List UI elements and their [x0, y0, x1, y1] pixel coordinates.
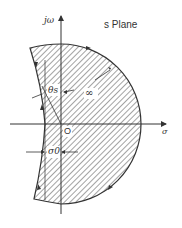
infinity-label: ∞ [85, 88, 93, 98]
s-plane-diagram [0, 0, 182, 228]
angle-label: θs [48, 86, 58, 95]
origin-label: O [64, 127, 71, 136]
theta-arrow-left [32, 94, 42, 98]
offset-label: σ0 [48, 147, 60, 156]
real-axis-label: σ [162, 128, 167, 136]
plane-title: s Plane [104, 20, 137, 30]
imaginary-axis-label: jω [44, 16, 54, 25]
